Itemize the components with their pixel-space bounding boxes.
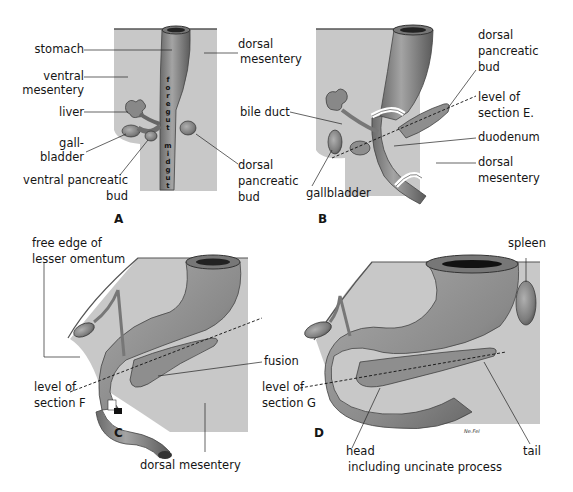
label-spleen-d: spleen (508, 236, 546, 251)
label-free-edge-c-1: free edge of (32, 236, 102, 251)
label-dorsal-mesentery-a-1: dorsal (238, 37, 273, 52)
label-dorsal-pancreatic-bud-a-1: dorsal (238, 158, 273, 173)
label-midgut-a: midgut (164, 142, 172, 190)
label-dorsal-mesentery-c: dorsal mesentery (140, 458, 241, 473)
label-gallbladder-a-1: gall- (30, 136, 84, 151)
label-dorsal-pancreatic-bud-b-3: bud (478, 60, 500, 75)
ventral-pancreatic-bud-b (350, 141, 370, 155)
panel-letter-d: D (314, 426, 324, 440)
label-head-d-2: including uncinate process (348, 460, 502, 475)
panel-b (290, 25, 476, 204)
label-bile-duct-b: bile duct (240, 105, 290, 120)
ventral-pancreatic-bud-a (145, 131, 157, 141)
label-level-of-section-e-2: section E. (478, 106, 534, 121)
spleen-d (516, 281, 536, 325)
label-dorsal-mesentery-b-2: mesentery (478, 171, 540, 186)
label-dorsal-mesentery-b-1: dorsal (478, 155, 513, 170)
label-dorsal-pancreatic-bud-a-3: bud (238, 190, 260, 205)
label-level-of-section-f-1: level of (34, 380, 76, 395)
panel-a (84, 26, 238, 191)
label-dorsal-mesentery-a-2: mesentery (240, 52, 302, 67)
dorsal-pancreatic-bud-a (180, 121, 196, 135)
label-free-edge-c-2: lesser omentum (32, 252, 125, 267)
label-ventral-pancreatic-bud-a-1: ventral pancreatic (20, 173, 128, 188)
panel-c (44, 255, 262, 459)
gallbladder-a (122, 125, 140, 137)
artist-signature: Ne.Fel (464, 428, 480, 434)
label-foregut-a: foregut (164, 76, 172, 132)
label-level-of-section-e-1: level of (478, 90, 520, 105)
label-level-of-section-g-1: level of (262, 380, 304, 395)
label-tail-d: tail (523, 444, 541, 459)
label-ventral-mesentery-a-2: mesentery (20, 83, 84, 98)
label-dorsal-pancreatic-bud-a-2: pancreatic (238, 174, 299, 189)
label-liver-a: liver (40, 105, 84, 120)
panel-d (300, 255, 540, 448)
label-dorsal-pancreatic-bud-b-2: pancreatic (478, 44, 539, 59)
label-gallbladder-a-2: bladder (30, 150, 84, 165)
label-stomach-a: stomach (30, 42, 84, 57)
panel-letter-b: B (318, 212, 327, 226)
label-duodenum-b: duodenum (478, 130, 540, 145)
label-head-d-1: head (346, 444, 375, 459)
label-ventral-mesentery-a-1: ventral (20, 69, 84, 84)
label-fusion-c: fusion (264, 354, 299, 369)
gallbladder-b (328, 130, 342, 154)
label-gallbladder-b: gallbladder (306, 186, 371, 201)
label-ventral-pancreatic-bud-a-2: bud (20, 189, 128, 204)
label-level-of-section-f-2: section F (34, 396, 86, 411)
label-level-of-section-g-2: section G (262, 396, 316, 411)
panel-letter-a: A (114, 212, 123, 226)
panel-letter-c: C (114, 426, 123, 440)
label-dorsal-pancreatic-bud-b-1: dorsal (478, 28, 513, 43)
